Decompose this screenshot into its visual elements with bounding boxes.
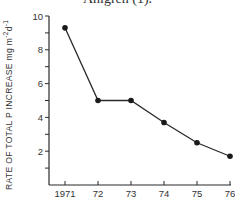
axes — [49, 16, 231, 185]
series-line — [65, 28, 230, 156]
x-tick-label: 72 — [93, 188, 104, 199]
data-point — [227, 153, 233, 159]
data-point — [194, 140, 200, 146]
y-tick-label: 6 — [38, 78, 43, 89]
data-point — [161, 120, 167, 126]
line-chart: 246810 19717273747576 RATE OF TOTAL P IN… — [0, 0, 235, 203]
series — [62, 25, 233, 159]
y-tick-label: 10 — [32, 11, 43, 22]
y-tick-label: 2 — [38, 146, 43, 157]
data-point — [95, 98, 101, 104]
x-tick-label: 1971 — [54, 188, 75, 199]
x-tick-label: 74 — [159, 188, 170, 199]
y-tick-label: 4 — [38, 112, 43, 123]
data-point — [128, 98, 134, 104]
x-ticks: 19717273747576 — [54, 181, 235, 199]
x-tick-label: 75 — [192, 188, 203, 199]
data-point — [62, 25, 68, 31]
y-axis-label: RATE OF TOTAL P INCREASE mg m-2d-1 — [2, 20, 14, 190]
x-tick-label: 76 — [225, 188, 235, 199]
y-tick-label: 8 — [38, 44, 43, 55]
x-tick-label: 73 — [126, 188, 137, 199]
y-ticks: 246810 — [32, 11, 49, 169]
